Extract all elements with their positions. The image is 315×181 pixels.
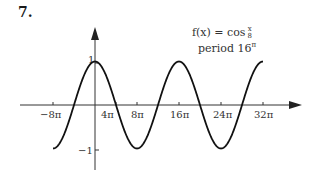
x-tick-label: 8π [131,109,144,120]
x-tick-label: −8π [40,109,62,120]
function-label: f(x) = cosx8 [192,26,252,40]
y-tick-label: −1 [78,145,93,156]
period-label: period 16π [198,41,256,55]
y-ticks [95,63,99,150]
x-axis [20,101,302,109]
x-axis-arrow-icon [289,101,302,109]
y-axis-arrow-icon [91,27,99,40]
x-tick-label: 4π [101,109,114,120]
x-tick-label: 24π [213,109,233,120]
x-tick-label: 16π [170,109,190,120]
cosine-graph: −8π 4π 8π 16π 24π 32π 1 −1 [0,0,315,181]
x-tick-label: 32π [254,109,274,120]
fraction: x8 [248,26,252,40]
